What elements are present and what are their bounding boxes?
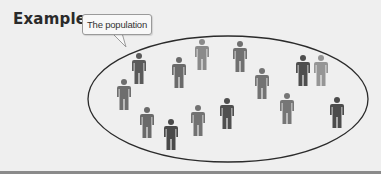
person-icon xyxy=(314,55,328,86)
person-icon xyxy=(220,98,234,129)
person-icon xyxy=(330,97,344,128)
person-icon xyxy=(296,55,310,86)
person-icon xyxy=(132,53,146,84)
diagram-stage: Example The population xyxy=(0,0,381,174)
person-icon xyxy=(117,79,131,110)
people-group xyxy=(117,39,344,150)
person-icon xyxy=(195,39,209,70)
person-icon xyxy=(191,105,205,136)
person-icon xyxy=(164,119,178,150)
person-icon xyxy=(233,41,247,72)
person-icon xyxy=(172,57,186,88)
person-icon xyxy=(140,107,154,138)
person-icon xyxy=(280,93,294,124)
callout-label: The population xyxy=(83,15,151,34)
population-callout: The population xyxy=(82,14,152,35)
person-icon xyxy=(255,68,269,99)
bottom-border xyxy=(0,171,381,174)
callout-pointer xyxy=(112,33,126,47)
population-diagram xyxy=(0,0,381,174)
